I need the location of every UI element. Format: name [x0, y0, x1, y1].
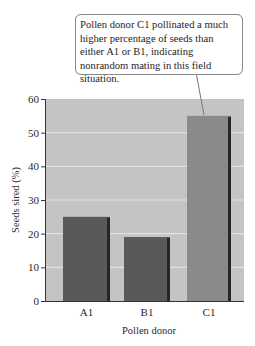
y-tick-label: 50 [28, 127, 40, 139]
y-tick-label: 60 [28, 93, 40, 105]
bar-c1 [187, 116, 231, 301]
y-axis-ticks: 0102030405060 [28, 93, 46, 307]
x-axis-tick-labels: A1B1C1 [80, 306, 216, 318]
bar-shadow [228, 117, 231, 301]
bar-a1 [63, 217, 110, 301]
y-tick-label: 20 [28, 228, 40, 240]
x-tick-label-a1: A1 [80, 306, 93, 318]
y-tick-label: 40 [28, 160, 40, 172]
x-axis-title: Pollen donor [122, 325, 176, 336]
x-tick-label-b1: B1 [141, 306, 154, 318]
callout-text: Pollen donor C1 pollinated a much higher… [80, 19, 228, 84]
x-tick-label-c1: C1 [203, 306, 216, 318]
y-axis-title: Seeds sired (%) [10, 167, 22, 233]
bar-shadow [107, 218, 110, 301]
y-tick-label: 10 [28, 261, 40, 273]
y-tick-label: 0 [34, 295, 40, 307]
annotation-callout: Pollen donor C1 pollinated a much higher… [75, 14, 243, 75]
y-tick-label: 30 [28, 194, 40, 206]
bar-shadow [167, 238, 170, 301]
bar-b1 [124, 237, 170, 301]
